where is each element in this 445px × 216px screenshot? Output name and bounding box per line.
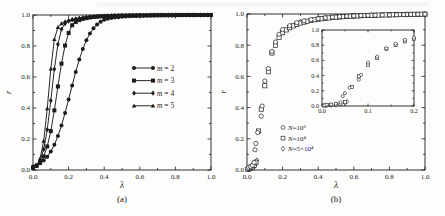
data-point [120,15,124,19]
x-tick-label: 0.8 [385,173,394,181]
data-point [152,13,156,17]
y-tick-label: 0.2 [21,135,30,143]
data-point [49,150,53,154]
legend-item: m = 5 [132,101,175,110]
data-point [295,21,299,25]
x-tick-label: 0.2 [64,173,73,181]
data-point [59,124,63,128]
data-point [259,114,263,118]
x-tick-label: 0.6 [135,173,144,181]
data-point [56,134,60,138]
panel-a: 0.00.20.40.60.81.00.00.20.40.60.81.0λr(a… [4,11,216,204]
data-point [145,14,149,18]
legend-square-icon [151,79,155,83]
data-point [205,13,209,17]
series-n-5-10- [325,36,415,108]
data-point [63,111,67,115]
legend-item: m = 2 [132,64,174,73]
data-point [281,28,285,32]
legend-square-icon [281,136,285,140]
data-point [316,16,320,20]
x-tick-label: 0.8 [171,173,180,181]
data-point [412,36,415,39]
data-point [380,13,384,17]
data-point [394,13,398,17]
y-tick-label: 0.4 [235,104,244,112]
data-point [49,66,53,70]
data-point [348,86,351,89]
data-point [345,14,349,18]
y-axis-label: r [219,90,228,94]
data-point [256,130,260,134]
data-point [330,103,333,106]
y-tick-label: 0.2 [235,135,244,143]
data-point [366,61,369,64]
data-point [59,21,63,25]
data-point [92,15,96,19]
legend-item: m = 4 [132,89,174,98]
data-point [42,154,46,158]
panel-caption: (a) [117,194,127,204]
y-tick-label: 0.0 [21,166,30,174]
data-point [156,13,160,17]
data-point [52,108,56,112]
data-point [74,70,78,74]
data-point [45,127,49,132]
legend: m = 2m = 3m = 4m = 5 [132,64,175,111]
data-point [132,66,136,70]
data-point [131,14,135,18]
legend-item: N=10³ [281,124,306,132]
data-point [106,17,110,21]
data-point [113,15,117,19]
x-tick-label: 0.0 [29,173,38,181]
data-point [184,13,188,17]
data-point [373,13,377,17]
legend-label: m = 2 [157,64,174,73]
data-point [254,141,258,145]
series-n-10- [323,38,416,108]
data-point [63,44,67,48]
data-point [341,95,344,98]
data-point [81,17,85,21]
y-tick-label: 0.8 [235,42,244,50]
axis-ticks [322,30,414,106]
x-tick-label: 0.6 [349,173,358,181]
data-point [77,57,81,61]
series-n-10- [323,36,416,107]
data-point [325,103,328,106]
legend-label: N=10⁴ [287,135,307,143]
y-tick-label: 0.4 [21,104,30,112]
x-axis-label: λ [119,180,124,190]
legend-label: m = 5 [157,101,174,110]
series-m-5 [31,13,213,170]
data-point [188,13,192,17]
x-tick-label: 0.2 [410,107,418,114]
series-n-10- [246,12,427,170]
y-tick-label: 0.2 [311,87,319,94]
data-point [352,14,356,18]
data-point [35,163,39,167]
y-tick-label: 0.6 [311,56,319,63]
y-tick-label: 1.0 [235,10,244,18]
y-tick-label: 1.0 [21,11,30,19]
data-point [170,13,174,17]
data-point [330,15,334,19]
y-tick-label: 0.6 [21,73,30,81]
data-point [67,19,71,24]
x-tick-label: 0.0 [243,173,252,181]
x-tick-label: 0.4 [314,173,323,181]
axis-ticks [247,14,425,170]
legend-label: N=5×10⁴ [287,145,314,153]
data-point [343,101,346,104]
data-point [323,16,327,20]
data-point [52,66,56,71]
data-point [88,31,92,35]
data-point [49,129,53,133]
y-tick-label: 0.4 [311,72,319,79]
series-m-3 [31,13,213,170]
charts-canvas: 0.00.20.40.60.81.00.00.20.40.60.81.0λr(a… [0,0,445,216]
legend-label: m = 3 [157,76,174,85]
data-point [198,13,202,17]
legend-item: N=5×10⁴ [281,145,314,153]
data-point [38,161,42,165]
